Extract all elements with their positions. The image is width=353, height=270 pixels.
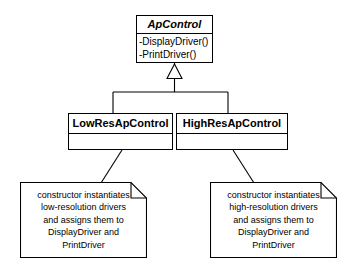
note-line: DisplayDriver and: [238, 226, 309, 239]
class-box-apcontrol[interactable]: ApControl -DisplayDriver() -PrintDriver(…: [136, 15, 213, 63]
note-highresapcontrol[interactable]: constructor instantiates high-resolution…: [210, 182, 337, 258]
note-line: DisplayDriver and: [48, 226, 119, 239]
note-anchor-line-highres: [233, 150, 254, 183]
note-line: PrintDriver: [62, 239, 105, 252]
operation-display-driver: -DisplayDriver(): [139, 35, 212, 48]
note-line: and assigns them to: [43, 214, 124, 227]
note-text-lowresapcontrol: constructor instantiates low-resolution …: [20, 182, 147, 258]
class-name-lowresapcontrol: LowResApControl: [69, 114, 172, 133]
note-text-highresapcontrol: constructor instantiates high-resolution…: [210, 182, 337, 258]
class-box-lowresapcontrol[interactable]: LowResApControl: [68, 113, 173, 150]
class-name-apcontrol: ApControl: [137, 16, 212, 33]
note-line: low-resolution drivers: [41, 201, 126, 214]
note-line: high-resolution drivers: [229, 201, 318, 214]
class-box-highresapcontrol[interactable]: HighResApControl: [176, 113, 288, 150]
class-operations-highresapcontrol: [177, 133, 287, 150]
class-name-highresapcontrol: HighResApControl: [177, 114, 287, 133]
note-line: PrintDriver: [252, 239, 295, 252]
class-operations-lowresapcontrol: [69, 133, 172, 150]
note-anchor-line-lowres: [101, 150, 122, 183]
note-line: constructor instantiates: [227, 189, 320, 202]
operation-print-driver: -PrintDriver(): [139, 48, 212, 61]
note-line: constructor instantiates: [37, 189, 130, 202]
note-lowresapcontrol[interactable]: constructor instantiates low-resolution …: [20, 182, 147, 258]
uml-class-diagram: ApControl -DisplayDriver() -PrintDriver(…: [0, 0, 353, 270]
note-line: and assigns them to: [233, 214, 314, 227]
class-operations-apcontrol: -DisplayDriver() -PrintDriver(): [137, 33, 212, 63]
inheritance-arrowhead-icon: [167, 64, 182, 79]
